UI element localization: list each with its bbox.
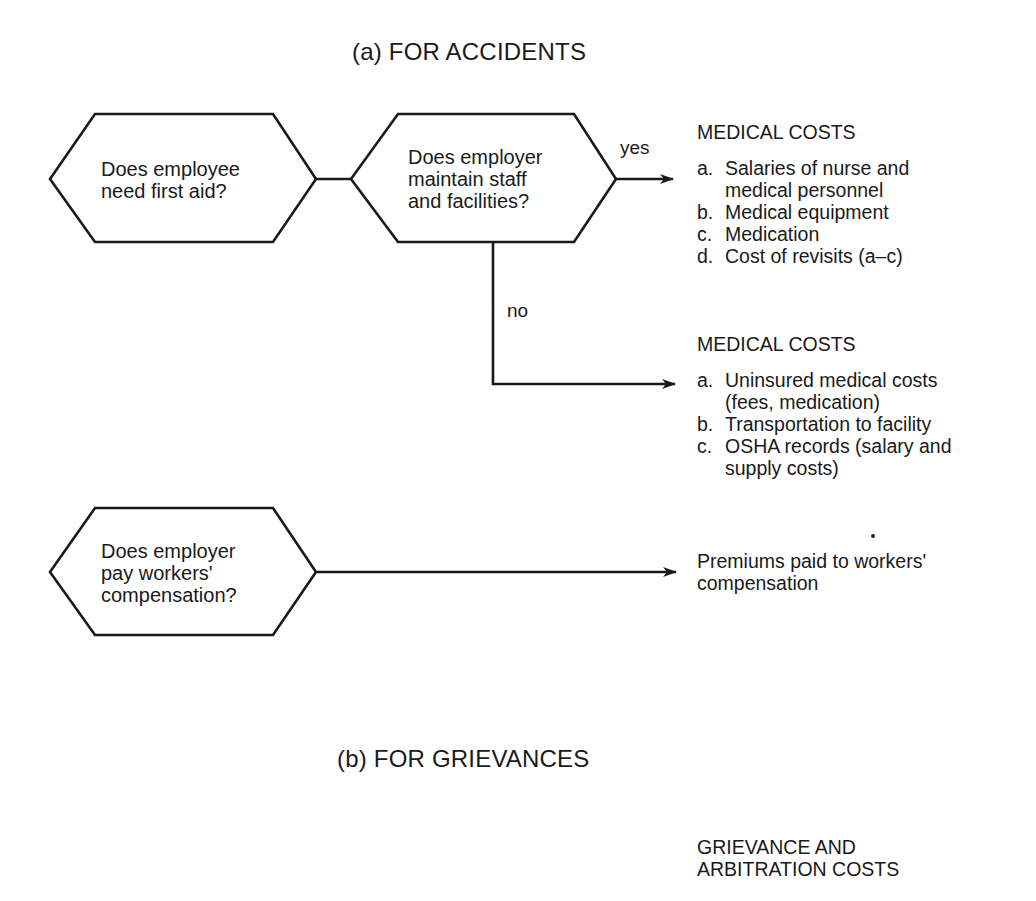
list-item: c. Medication (697, 223, 909, 245)
node-workers-comp-text: Does employer pay workers' compensation? (101, 540, 237, 606)
outcome-medical-costs-no: MEDICAL COSTS a. Uninsured medical costs… (697, 333, 952, 479)
item-line: Uninsured medical costs (725, 369, 952, 391)
outcome-heading-line: ARBITRATION COSTS (697, 858, 899, 880)
item-line: Cost of revisits (a–c) (725, 245, 909, 267)
item-line: medical personnel (725, 179, 909, 201)
node-line: need first aid? (101, 180, 240, 202)
outcome-grievance-costs: GRIEVANCE AND ARBITRATION COSTS (697, 836, 899, 880)
item-line: (fees, medication) (725, 391, 952, 413)
outcome-heading-line: GRIEVANCE AND (697, 836, 899, 858)
item-line: supply costs) (725, 457, 952, 479)
list-item: a. Salaries of nurse and medical personn… (697, 157, 909, 201)
list-item: b. Medical equipment (697, 201, 909, 223)
item-line: Transportation to facility (725, 413, 952, 435)
list-item: c. OSHA records (salary and supply costs… (697, 435, 952, 479)
item-marker: a. (697, 369, 713, 391)
section-b-title: (b) FOR GRIEVANCES (337, 745, 590, 773)
outcome-medical-costs-yes: MEDICAL COSTS a. Salaries of nurse and m… (697, 121, 909, 267)
outcome-line: Premiums paid to workers' (697, 550, 926, 572)
item-marker: c. (697, 435, 712, 457)
item-line: OSHA records (salary and (725, 435, 952, 457)
yes-label: yes (620, 137, 650, 159)
item-line: Medication (725, 223, 909, 245)
node-line: Does employer (101, 540, 237, 562)
list-item: d. Cost of revisits (a–c) (697, 245, 909, 267)
outcome-heading: MEDICAL COSTS (697, 121, 909, 143)
item-line: Salaries of nurse and (725, 157, 909, 179)
item-marker: a. (697, 157, 713, 179)
item-line: Medical equipment (725, 201, 909, 223)
node-line: and facilities? (408, 190, 543, 212)
outcome-heading: MEDICAL COSTS (697, 333, 952, 355)
list-item: b. Transportation to facility (697, 413, 952, 435)
list-item: a. Uninsured medical costs (fees, medica… (697, 369, 952, 413)
outcome-line: compensation (697, 572, 926, 594)
node-first-aid-text: Does employee need first aid? (101, 158, 240, 202)
item-marker: b. (697, 201, 713, 223)
print-speck (871, 534, 875, 538)
node-staff-facilities-text: Does employer maintain staff and facilit… (408, 146, 543, 212)
node-line: Does employee (101, 158, 240, 180)
outcome-workers-comp-premiums: Premiums paid to workers' compensation (697, 550, 926, 594)
node-line: compensation? (101, 584, 237, 606)
item-marker: c. (697, 223, 712, 245)
no-label: no (507, 300, 528, 322)
item-marker: d. (697, 245, 713, 267)
node-line: pay workers' (101, 562, 237, 584)
node-line: Does employer (408, 146, 543, 168)
node-line: maintain staff (408, 168, 543, 190)
item-marker: b. (697, 413, 713, 435)
